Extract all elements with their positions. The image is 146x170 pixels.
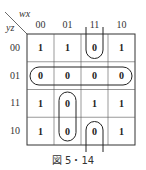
kmap-cell: 1 [38, 126, 43, 137]
kmap-cell: 0 [92, 126, 97, 137]
kmap-cell: 1 [38, 42, 43, 53]
kmap-cell: 0 [92, 42, 97, 53]
row-variable-label: yz [5, 22, 14, 33]
kmap-cell: 1 [119, 98, 124, 109]
kmap-cell: 1 [92, 98, 97, 109]
figure-caption: 図 5・14 [52, 155, 94, 166]
kmap-cell: 0 [65, 98, 70, 109]
kmap-cell: 1 [119, 42, 124, 53]
row-label: 01 [10, 70, 20, 81]
col-label: 01 [63, 19, 73, 30]
row-label: 00 [10, 42, 20, 53]
col-variable-label: wx [19, 8, 31, 19]
kmap-cell: 1 [65, 42, 70, 53]
kmap-cell: 0 [65, 126, 70, 137]
col-label: 10 [117, 19, 127, 30]
col-label: 00 [36, 19, 46, 30]
kmap-cell: 0 [38, 70, 43, 81]
col-label: 11 [90, 19, 100, 30]
kmap-cell: 0 [92, 70, 97, 81]
row-label: 11 [10, 97, 20, 108]
karnaugh-map: wx yz 00 01 11 10 00 01 11 10 1101000010… [0, 0, 146, 170]
kmap-cell: 0 [119, 70, 124, 81]
row-label: 10 [10, 125, 20, 136]
kmap-cell: 1 [119, 126, 124, 137]
kmap-cell: 1 [38, 98, 43, 109]
kmap-cell: 0 [65, 70, 70, 81]
